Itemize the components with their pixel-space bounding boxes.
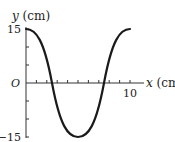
y-tick-label-min: −15 <box>0 131 21 142</box>
origin-label: O <box>11 77 20 90</box>
y-tick-label-max: 15 <box>7 23 21 36</box>
wave-chart: y (cm) 15 O −15 10 x (cm) <box>0 0 175 142</box>
y-axis-label: y (cm) <box>11 9 50 23</box>
x-tick-label-10: 10 <box>123 87 137 100</box>
x-axis-label: x (cm) <box>146 76 175 90</box>
